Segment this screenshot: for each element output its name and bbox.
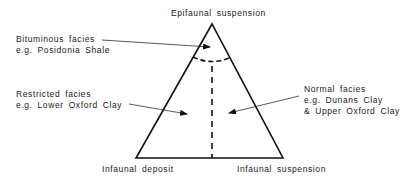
- annotation-bituminous-example: e.g. Posidonia Shale: [16, 45, 110, 56]
- arrow-bituminous: [102, 40, 210, 47]
- annotation-restricted-example: e.g. Lower Oxford Clay: [16, 100, 122, 111]
- annotation-normal-example: e.g. Dunans Clay: [304, 95, 383, 106]
- annotation-normal-example-2: & Upper Oxford Clay: [304, 106, 400, 117]
- vertex-label-top: Epifaunal suspension: [171, 8, 266, 19]
- arrow-restricted: [129, 104, 187, 114]
- vertex-label-bottom-left: Infaunal deposit: [102, 164, 174, 175]
- dashed-divider-arc: [193, 57, 231, 62]
- annotation-bituminous-title: Bituminous facies: [16, 34, 95, 45]
- triangle-outline: [136, 24, 283, 158]
- arrow-normal: [229, 96, 299, 113]
- vertex-label-bottom-right: Infaunal suspension: [237, 164, 326, 175]
- annotation-restricted-title: Restricted facies: [16, 89, 91, 100]
- annotation-normal-title: Normal facies: [304, 84, 366, 95]
